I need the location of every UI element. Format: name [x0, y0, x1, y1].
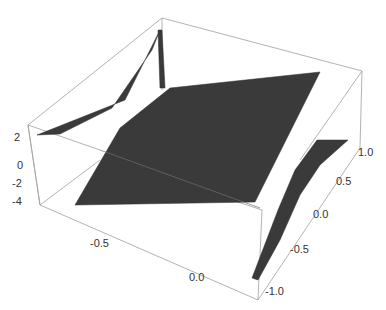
x-tick-label: 0.0: [189, 271, 204, 283]
z-tick-label: -2: [12, 177, 22, 189]
y-tick-label: -0.5: [290, 243, 309, 255]
z-tick-label: 2: [14, 131, 20, 143]
surface-spike: [158, 30, 165, 88]
z-tick-label: -4: [12, 195, 22, 207]
y-tick-label: 0.0: [313, 208, 328, 220]
surface-plot-3d: 2 0 -2 -4 1.0 0.5 0.0 -0.5 -1.0 -0.5 0.0: [0, 0, 386, 310]
z-axis: 2 0 -2 -4: [12, 125, 40, 207]
x-axis: -0.5 0.0: [90, 237, 204, 283]
z-tick-label: 0: [17, 159, 23, 171]
x-tick-label: -0.5: [90, 237, 109, 249]
y-tick-label: 1.0: [358, 146, 373, 158]
y-tick-label: -1.0: [265, 285, 284, 297]
y-tick-label: 0.5: [336, 175, 351, 187]
